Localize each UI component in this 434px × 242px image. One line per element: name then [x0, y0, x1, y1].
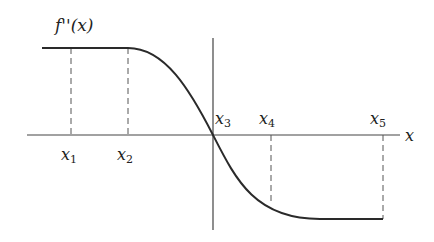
function-label: f''(x) [53, 15, 94, 35]
point-label-x3: x3 [215, 109, 231, 130]
axis-label-x: x [405, 126, 414, 145]
second-derivative-diagram: f''(x) x x1 x2 x3 x4 x5 [0, 0, 434, 242]
point-label-x4: x4 [259, 109, 275, 130]
point-label-x1: x1 [61, 145, 77, 166]
point-label-x5: x5 [370, 109, 386, 130]
point-label-x2: x2 [117, 145, 133, 166]
